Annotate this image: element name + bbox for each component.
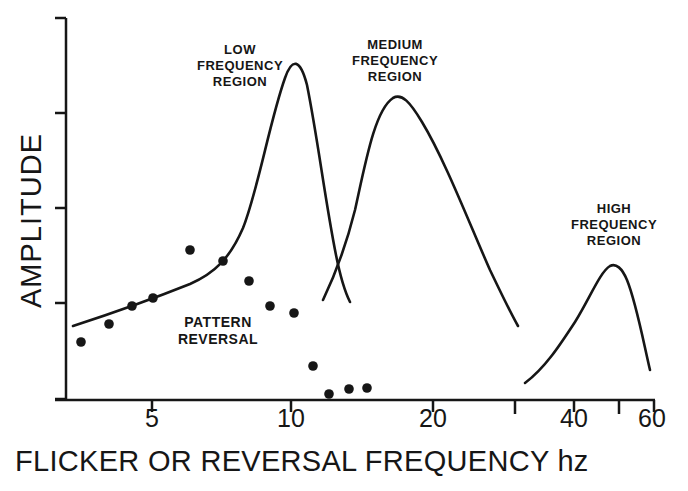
x-axis-title: FLICKER OR REVERSAL FREQUENCY hz bbox=[15, 445, 589, 478]
x-tick-label-5: 5 bbox=[145, 404, 159, 433]
low-label-line-3: REGION bbox=[196, 74, 284, 90]
low-label-line-1: LOW bbox=[196, 42, 284, 58]
medium-frequency-label: MEDIUM FREQUENCY REGION bbox=[347, 37, 443, 85]
medium-label-line-2: FREQUENCY bbox=[347, 53, 443, 69]
y-axis-title: AMPLITUDE bbox=[15, 133, 48, 308]
x-tick-label-40: 40 bbox=[560, 404, 588, 433]
pattern-label-line-1: PATTERN bbox=[170, 314, 266, 331]
x-tick-label-20: 20 bbox=[419, 404, 447, 433]
high-frequency-label: HIGH FREQUENCY REGION bbox=[566, 201, 662, 249]
pattern-label-line-2: REVERSAL bbox=[170, 331, 266, 348]
high-label-line-2: FREQUENCY bbox=[566, 217, 662, 233]
high-frequency-curve bbox=[525, 265, 650, 383]
medium-frequency-curve bbox=[323, 97, 518, 326]
low-frequency-label: LOW FREQUENCY REGION bbox=[196, 42, 284, 90]
high-label-line-1: HIGH bbox=[566, 201, 662, 217]
low-label-line-2: FREQUENCY bbox=[196, 58, 284, 74]
high-label-line-3: REGION bbox=[566, 233, 662, 249]
medium-label-line-1: MEDIUM bbox=[347, 37, 443, 53]
medium-label-line-3: REGION bbox=[347, 69, 443, 85]
x-tick-label-10: 10 bbox=[277, 404, 305, 433]
x-tick-label-60: 60 bbox=[638, 404, 666, 433]
pattern-reversal-label: PATTERN REVERSAL bbox=[170, 314, 266, 348]
low-frequency-curve bbox=[73, 64, 350, 326]
y-axis bbox=[55, 18, 66, 400]
